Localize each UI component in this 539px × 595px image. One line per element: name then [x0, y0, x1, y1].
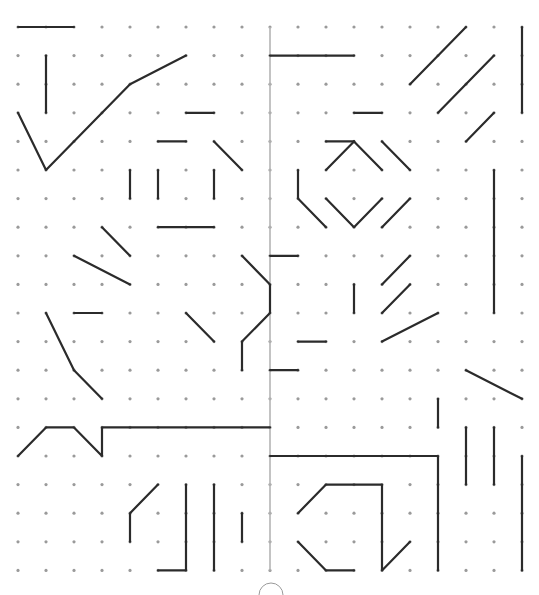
- grid-dot[interactable]: [296, 283, 299, 286]
- grid-dot[interactable]: [100, 25, 103, 28]
- grid-dot[interactable]: [156, 540, 159, 543]
- grid-dot[interactable]: [16, 283, 19, 286]
- grid-dot[interactable]: [492, 569, 495, 572]
- puzzle-board[interactable]: Dot grid mirror-drawing puzzle Left half…: [0, 0, 539, 595]
- semicircle-handle-icon[interactable]: [259, 583, 283, 595]
- grid-dot[interactable]: [464, 197, 467, 200]
- dot-grid-canvas[interactable]: [0, 0, 539, 595]
- grid-dot[interactable]: [100, 168, 103, 171]
- grid-dot[interactable]: [520, 369, 523, 372]
- grid-dot[interactable]: [296, 111, 299, 114]
- grid-dot[interactable]: [184, 397, 187, 400]
- grid-dot[interactable]: [436, 83, 439, 86]
- grid-dot[interactable]: [128, 369, 131, 372]
- grid-dot[interactable]: [184, 25, 187, 28]
- grid-dot[interactable]: [408, 369, 411, 372]
- grid-dot[interactable]: [380, 397, 383, 400]
- grid-dot[interactable]: [324, 254, 327, 257]
- grid-dot[interactable]: [100, 283, 103, 286]
- grid-dot[interactable]: [240, 197, 243, 200]
- grid-dot[interactable]: [16, 54, 19, 57]
- grid-dot[interactable]: [240, 283, 243, 286]
- grid-dot[interactable]: [324, 111, 327, 114]
- grid-dot[interactable]: [156, 283, 159, 286]
- grid-dot[interactable]: [520, 426, 523, 429]
- grid-dot[interactable]: [520, 340, 523, 343]
- grid-dot[interactable]: [240, 25, 243, 28]
- grid-dot[interactable]: [184, 168, 187, 171]
- grid-dot[interactable]: [128, 54, 131, 57]
- grid-dot[interactable]: [464, 340, 467, 343]
- grid-dot[interactable]: [520, 226, 523, 229]
- grid-dot[interactable]: [408, 140, 411, 143]
- grid-dot[interactable]: [240, 226, 243, 229]
- grid-dot[interactable]: [44, 540, 47, 543]
- grid-dot[interactable]: [72, 397, 75, 400]
- grid-dot[interactable]: [72, 283, 75, 286]
- grid-dot[interactable]: [352, 254, 355, 257]
- grid-dot[interactable]: [16, 197, 19, 200]
- grid-dot[interactable]: [212, 25, 215, 28]
- grid-dot[interactable]: [408, 111, 411, 114]
- grid-dot[interactable]: [100, 540, 103, 543]
- grid-dot[interactable]: [464, 397, 467, 400]
- grid-dot[interactable]: [240, 111, 243, 114]
- grid-dot[interactable]: [156, 340, 159, 343]
- grid-dot[interactable]: [352, 197, 355, 200]
- grid-dot[interactable]: [464, 512, 467, 515]
- grid-dot[interactable]: [44, 283, 47, 286]
- grid-dot[interactable]: [296, 397, 299, 400]
- grid-dot[interactable]: [156, 311, 159, 314]
- grid-dot[interactable]: [492, 83, 495, 86]
- grid-dot[interactable]: [492, 340, 495, 343]
- grid-dot[interactable]: [100, 83, 103, 86]
- grid-dot[interactable]: [436, 340, 439, 343]
- grid-dot[interactable]: [464, 226, 467, 229]
- grid-dot[interactable]: [240, 83, 243, 86]
- grid-dot[interactable]: [352, 25, 355, 28]
- grid-dot[interactable]: [72, 512, 75, 515]
- grid-dot[interactable]: [324, 397, 327, 400]
- grid-dot[interactable]: [16, 340, 19, 343]
- grid-dot[interactable]: [324, 512, 327, 515]
- grid-dot[interactable]: [408, 426, 411, 429]
- grid-dot[interactable]: [72, 83, 75, 86]
- grid-dot[interactable]: [380, 369, 383, 372]
- grid-dot[interactable]: [100, 569, 103, 572]
- grid-dot[interactable]: [16, 226, 19, 229]
- grid-dot[interactable]: [296, 83, 299, 86]
- grid-dot[interactable]: [72, 454, 75, 457]
- grid-dot[interactable]: [184, 283, 187, 286]
- grid-dot[interactable]: [72, 54, 75, 57]
- grid-dot[interactable]: [240, 54, 243, 57]
- grid-dot[interactable]: [156, 111, 159, 114]
- grid-dot[interactable]: [184, 197, 187, 200]
- grid-dot[interactable]: [520, 254, 523, 257]
- grid-dot[interactable]: [520, 140, 523, 143]
- grid-dot[interactable]: [352, 369, 355, 372]
- grid-dot[interactable]: [128, 25, 131, 28]
- grid-dot[interactable]: [436, 168, 439, 171]
- grid-dot[interactable]: [520, 168, 523, 171]
- grid-dot[interactable]: [464, 283, 467, 286]
- grid-dot[interactable]: [352, 340, 355, 343]
- grid-dot[interactable]: [72, 483, 75, 486]
- grid-dot[interactable]: [436, 197, 439, 200]
- grid-dot[interactable]: [492, 397, 495, 400]
- grid-dot[interactable]: [16, 140, 19, 143]
- grid-dot[interactable]: [408, 226, 411, 229]
- grid-dot[interactable]: [464, 254, 467, 257]
- grid-dot[interactable]: [156, 369, 159, 372]
- grid-dot[interactable]: [408, 340, 411, 343]
- grid-dot[interactable]: [240, 483, 243, 486]
- grid-dot[interactable]: [492, 369, 495, 372]
- grid-dot[interactable]: [296, 226, 299, 229]
- grid-dot[interactable]: [212, 283, 215, 286]
- grid-dot[interactable]: [352, 83, 355, 86]
- grid-dot[interactable]: [44, 397, 47, 400]
- grid-dot[interactable]: [520, 311, 523, 314]
- grid-dot[interactable]: [212, 454, 215, 457]
- grid-dot[interactable]: [436, 140, 439, 143]
- grid-dot[interactable]: [128, 340, 131, 343]
- grid-dot[interactable]: [16, 311, 19, 314]
